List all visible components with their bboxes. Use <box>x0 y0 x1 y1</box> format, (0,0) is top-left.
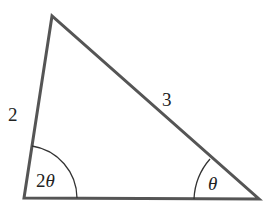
angle-var: θ <box>46 170 55 191</box>
triangle-outline <box>24 16 259 199</box>
angle-coef: 2 <box>36 170 46 191</box>
angle-label-2theta: 2θ <box>36 170 55 191</box>
angle-label-theta: θ <box>208 173 217 194</box>
triangle-diagram: 2 3 2θ θ <box>0 0 266 211</box>
side-label-left: 2 <box>8 104 18 125</box>
side-label-hypotenuse: 3 <box>162 89 172 110</box>
